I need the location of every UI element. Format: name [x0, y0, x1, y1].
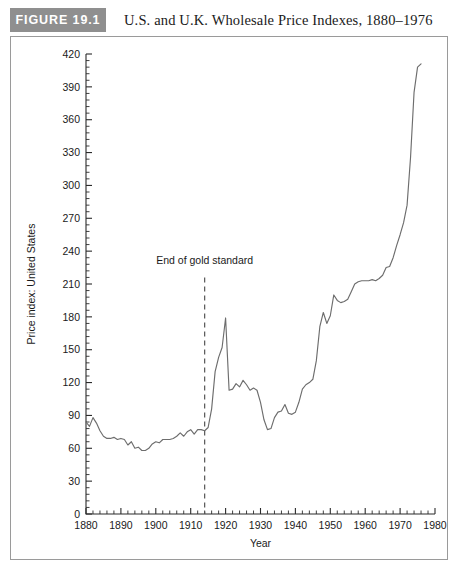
- y-tick-label: 60: [68, 442, 80, 454]
- axis-lines: [86, 54, 435, 514]
- y-tick-label: 120: [62, 376, 80, 388]
- y-axis-ticks: 0306090120150180210240270300330360390420: [62, 48, 92, 520]
- chart-annotations: End of gold standard: [156, 254, 253, 514]
- x-tick-label: 1910: [179, 519, 203, 531]
- y-tick-label: 420: [62, 48, 80, 60]
- x-tick-label: 1920: [214, 519, 238, 531]
- x-axis-title: Year: [250, 537, 272, 549]
- axis-frame: [86, 54, 435, 514]
- series-path-us-price-index: [86, 64, 421, 451]
- x-tick-label: 1970: [388, 519, 412, 531]
- figure-title-bar: FIGURE 19.1 U.S. and U.K. Wholesale Pric…: [10, 8, 450, 32]
- y-tick-label: 240: [62, 245, 80, 257]
- panel-label: (a): [254, 558, 267, 559]
- y-tick-label: 180: [62, 311, 80, 323]
- axis-titles-group: Year(a)Price index: United States: [25, 224, 272, 559]
- x-tick-label: 1880: [74, 519, 98, 531]
- y-tick-label: 30: [68, 475, 80, 487]
- y-tick-label: 330: [62, 146, 80, 158]
- annotation-label: End of gold standard: [156, 254, 253, 266]
- y-tick-label: 150: [62, 343, 80, 355]
- price-index-line-chart: 0306090120150180210240270300330360390420…: [11, 37, 447, 559]
- x-tick-label: 1980: [423, 519, 447, 531]
- x-tick-label: 1950: [319, 519, 343, 531]
- x-axis-ticks: 1880189019001910192019301940195019601970…: [74, 508, 447, 531]
- x-tick-label: 1940: [284, 519, 308, 531]
- figure-title-text: U.S. and U.K. Wholesale Price Indexes, 1…: [106, 8, 450, 32]
- y-tick-label: 270: [62, 212, 80, 224]
- figure-frame: 0306090120150180210240270300330360390420…: [10, 36, 448, 560]
- y-tick-label: 390: [62, 81, 80, 93]
- y-tick-label: 210: [62, 278, 80, 290]
- y-tick-label: 360: [62, 113, 80, 125]
- y-tick-label: 300: [62, 179, 80, 191]
- figure-number-badge: FIGURE 19.1: [10, 8, 106, 32]
- x-tick-label: 1930: [249, 519, 273, 531]
- x-tick-label: 1960: [354, 519, 378, 531]
- data-series-group: [86, 64, 421, 451]
- y-axis-title: Price index: United States: [25, 224, 37, 345]
- y-tick-label: 0: [74, 508, 80, 520]
- x-tick-label: 1890: [109, 519, 133, 531]
- figure-container: FIGURE 19.1 U.S. and U.K. Wholesale Pric…: [0, 0, 459, 575]
- x-tick-label: 1900: [144, 519, 168, 531]
- y-tick-label: 90: [68, 409, 80, 421]
